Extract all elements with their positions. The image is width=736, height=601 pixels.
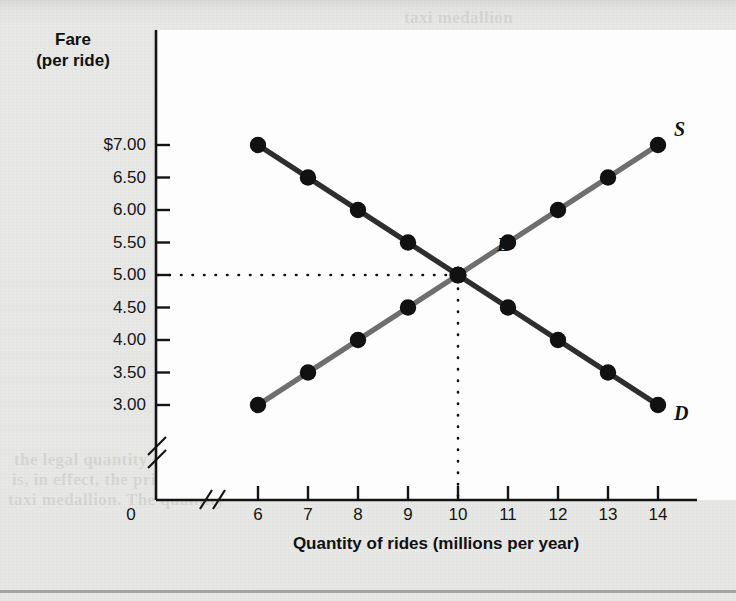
data-point-marker bbox=[550, 202, 566, 218]
data-point-marker bbox=[350, 202, 366, 218]
data-point-marker bbox=[650, 137, 666, 153]
data-point-marker bbox=[650, 397, 666, 413]
data-point-marker bbox=[250, 397, 266, 413]
x-axis-tick-label: 6 bbox=[238, 505, 278, 525]
y-axis-tick-label: $7.00 bbox=[50, 135, 146, 155]
y-axis-tick-label: 6.00 bbox=[50, 200, 146, 220]
data-point-marker bbox=[300, 169, 316, 185]
x-axis-tick-label: 7 bbox=[288, 505, 328, 525]
page-bottom-rule bbox=[0, 590, 736, 593]
y-axis-tick-label: 4.50 bbox=[50, 298, 146, 318]
y-axis-tick-label: 5.50 bbox=[50, 233, 146, 253]
data-point-marker bbox=[400, 299, 416, 315]
x-axis-tick-label: 10 bbox=[438, 505, 478, 525]
y-axis-tick-label: 5.00 bbox=[50, 265, 146, 285]
data-point-marker bbox=[300, 364, 316, 380]
y-axis-tick-label: 6.50 bbox=[50, 168, 146, 188]
x-axis-ticks bbox=[258, 486, 658, 500]
supply-curve-label: S bbox=[674, 118, 685, 141]
equilibrium-label: E bbox=[497, 234, 510, 256]
data-point-marker bbox=[500, 299, 516, 315]
x-axis-tick-label: 9 bbox=[388, 505, 428, 525]
origin-label: 0 bbox=[116, 505, 146, 525]
data-point-marker bbox=[400, 234, 416, 250]
x-axis-tick-label: 13 bbox=[588, 505, 628, 525]
supply-demand-figure: Fare (per ride) Quantity of rides (milli… bbox=[0, 0, 736, 601]
equilibrium-point-marker bbox=[449, 266, 466, 283]
x-axis-tick-label: 8 bbox=[338, 505, 378, 525]
y-axis-tick-label: 4.00 bbox=[50, 330, 146, 350]
x-axis-tick-label: 11 bbox=[488, 505, 528, 525]
demand-curve-label: D bbox=[674, 402, 688, 425]
x-axis-title: Quantity of rides (millions per year) bbox=[156, 534, 716, 554]
data-point-marker bbox=[550, 332, 566, 348]
x-axis-tick-label: 12 bbox=[538, 505, 578, 525]
data-point-marker bbox=[250, 137, 266, 153]
data-point-marker bbox=[600, 364, 616, 380]
y-axis-tick-label: 3.00 bbox=[50, 395, 146, 415]
data-point-marker bbox=[600, 169, 616, 185]
data-point-marker bbox=[350, 332, 366, 348]
x-axis-tick-label: 14 bbox=[638, 505, 678, 525]
y-axis-tick-label: 3.50 bbox=[50, 363, 146, 383]
